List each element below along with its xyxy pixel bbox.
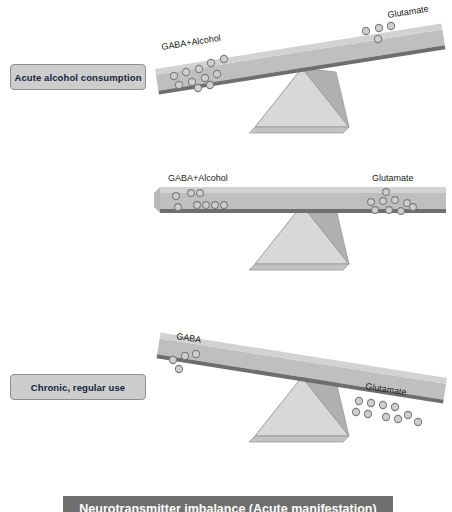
scale-chronic-regular-use: GABA+Alcohol Glutamate (150, 165, 452, 313)
fulcrum-pyramid (249, 205, 349, 270)
scale-acute-alcohol-consumption: GABA+Alcohol Glutamate (150, 0, 452, 165)
fulcrum-pyramid (249, 377, 349, 442)
molecule-group-glutamate (352, 397, 421, 425)
molecule-label-glutamate: Glutamate (387, 4, 430, 20)
bottom-caption-bar: Neurotransmitter imbalance (Acute manife… (63, 496, 393, 512)
panel-chronic-regular-use: Chronic, regular use (0, 165, 452, 313)
stage-label-acute-alcohol-consumption: Acute alcohol consumption (10, 64, 146, 90)
molecule-label-gaba-alcohol: GABA+Alcohol (168, 173, 228, 183)
panel-acute-withdrawal: Acute withdrawal (0, 313, 452, 478)
panel-acute-alcohol-consumption: Acute alcohol consumption (0, 0, 452, 165)
seesaw-diagram: Acute alcohol consumption (0, 0, 452, 512)
scale-acute-withdrawal: GABA Glutamate (150, 313, 452, 478)
molecule-label-glutamate: Glutamate (372, 173, 414, 183)
molecule-label-gaba-alcohol: GABA+Alcohol (161, 33, 222, 52)
